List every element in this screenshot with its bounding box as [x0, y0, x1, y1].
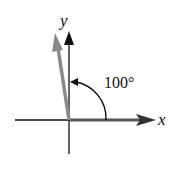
y-axis-arrowhead: [64, 31, 74, 45]
angle-arc: [76, 82, 106, 120]
y-axis-label: y: [58, 11, 68, 30]
angle-arc-arrowhead: [70, 78, 78, 86]
angle-label: 100°: [104, 74, 134, 91]
rotated-vector: [58, 48, 69, 120]
rotation-diagram: y x 100°: [0, 0, 177, 172]
x-axis-label: x: [157, 110, 166, 129]
rotated-vector-arrowhead: [52, 33, 63, 52]
